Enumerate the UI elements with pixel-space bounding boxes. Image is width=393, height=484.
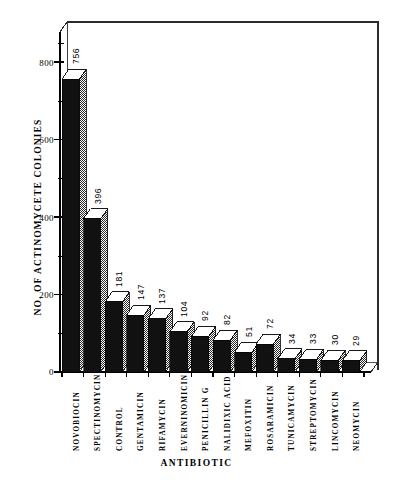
bar xyxy=(127,305,151,372)
bar-value-label: 756 xyxy=(71,48,81,64)
bar-value-label: 33 xyxy=(308,333,318,344)
bar xyxy=(191,326,215,372)
x-axis-category-label: STREPTOMYCIN xyxy=(310,378,318,451)
bar xyxy=(213,330,237,372)
x-axis-category-label: NOVOBIOCIN xyxy=(73,391,81,451)
bar-value-label: 147 xyxy=(136,284,146,300)
bar-value-label: 137 xyxy=(157,288,167,304)
bar xyxy=(62,69,86,372)
bar xyxy=(235,342,259,372)
bar xyxy=(256,334,280,372)
bar-value-label: 72 xyxy=(265,318,275,329)
bar-value-label: 29 xyxy=(351,335,361,346)
x-axis-category-label: LINCOMYCIN xyxy=(332,390,340,451)
bar xyxy=(299,349,323,372)
x-axis-category-label: CONTROL xyxy=(116,406,124,451)
bar-chart: NO. OF ACTINOMYCETE COLONIES ANTIBIOTIC … xyxy=(0,0,393,484)
bar xyxy=(278,349,302,372)
bar-series xyxy=(62,69,367,372)
x-axis-category-label: NALIDIXIC ACID xyxy=(224,375,232,451)
bar-value-label: 396 xyxy=(93,187,103,203)
x-axis-category-label: GENTAMICIN xyxy=(137,391,145,451)
bar-value-label: 34 xyxy=(287,333,297,344)
bar-value-label: 30 xyxy=(330,335,340,346)
x-axis-category-label: ROSARAMICIN xyxy=(267,385,275,451)
bar xyxy=(105,292,129,372)
x-axis-category-label: PENICILLIN G xyxy=(202,386,210,451)
x-axis-category-label: RIFAMYCIN xyxy=(159,398,167,451)
bar xyxy=(342,351,366,372)
bar-value-label: 51 xyxy=(244,326,254,337)
x-axis-category-label: TUNICAMYCIN xyxy=(288,384,296,451)
bar xyxy=(148,309,172,372)
x-axis-category-label: MEFOXITIN xyxy=(245,398,253,451)
bar-value-label: 104 xyxy=(179,301,189,317)
bar xyxy=(321,350,345,372)
bar-value-label: 181 xyxy=(114,271,124,287)
x-axis-ticks xyxy=(62,372,364,377)
bar-value-label: 92 xyxy=(200,311,210,322)
bar xyxy=(170,322,194,372)
x-axis-category-label: SPECTINOMYCIN xyxy=(94,374,102,452)
bar-value-label: 82 xyxy=(222,314,232,325)
x-axis-category-label: EVERNINOMICIN xyxy=(181,374,189,451)
bar xyxy=(84,209,108,372)
x-axis-category-label: NEOMYCIN xyxy=(353,401,361,451)
